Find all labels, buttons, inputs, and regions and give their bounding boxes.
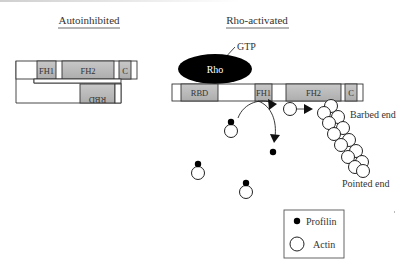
gtp-label: GTP — [237, 41, 256, 52]
fh1-label: FH1 — [39, 66, 54, 76]
speck — [394, 211, 395, 213]
actin-monomer — [284, 103, 297, 116]
svg-text:Autoinhibited: Autoinhibited — [58, 14, 120, 26]
title-autoinhibited: Autoinhibited — [58, 14, 120, 28]
profilin-actin-complex — [192, 161, 205, 180]
rbd-label: RBD — [191, 88, 208, 98]
rho-gtp: GTP Rho — [178, 41, 256, 84]
c-label: C — [122, 66, 128, 76]
arrow-right-icon — [304, 104, 313, 114]
profilin-actin-complex — [225, 119, 238, 138]
free-profilin — [270, 149, 276, 155]
profilin-icon — [294, 218, 300, 224]
autoinhibited-formin — [16, 61, 137, 103]
barbed-end-label: Barbed end — [350, 109, 396, 120]
fh1-label: FH1 — [256, 88, 271, 98]
rbd-label-inverted: RBD — [89, 95, 106, 105]
pointed-end-label: Pointed end — [342, 178, 390, 189]
actin-icon — [290, 237, 304, 251]
fh2-label: FH2 — [306, 88, 321, 98]
rho-label: Rho — [207, 64, 224, 75]
arrowhead-icon — [270, 134, 280, 143]
legend-actin-label: Actin — [313, 239, 335, 250]
legend: Profilin Actin — [284, 210, 344, 258]
svg-text:Rho-activated: Rho-activated — [226, 14, 288, 26]
title-rho-activated: Rho-activated — [226, 14, 289, 28]
legend-profilin-label: Profilin — [306, 216, 337, 227]
formin-activation-diagram: Autoinhibited Rho-activated FH1 FH2 C RB… — [0, 0, 411, 271]
profilin-actin-complex — [240, 180, 253, 199]
c-label: C — [348, 88, 354, 98]
fh2-label: FH2 — [80, 66, 95, 76]
